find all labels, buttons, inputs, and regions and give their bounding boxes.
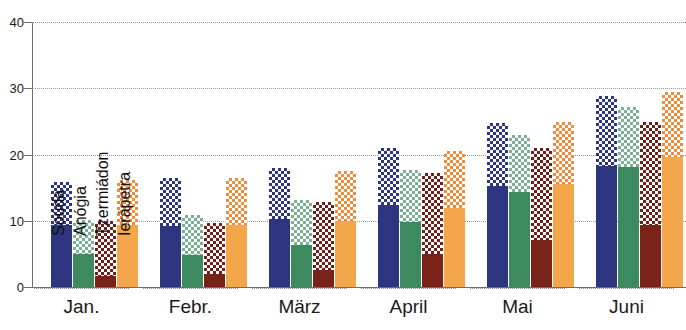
- bar-soda-Mai: [487, 123, 508, 287]
- bar-tzermidon-Febr: [204, 223, 225, 287]
- bar-segment-checkered: [335, 171, 356, 221]
- bar-segment-checkered: [182, 215, 203, 255]
- bar-segment-solid: [204, 274, 225, 287]
- y-tick-30: [24, 88, 32, 89]
- bar-tzermidon-April: [422, 173, 443, 287]
- bar-segment-checkered: [204, 223, 225, 274]
- bar-ierpetra-Mrz: [335, 171, 356, 287]
- bar-segment-solid: [487, 186, 508, 287]
- bar-segment-checkered: [553, 122, 574, 184]
- plot-area: [32, 22, 686, 287]
- y-tick-label-40: 40: [0, 15, 24, 30]
- category-label-Mai: Mai: [502, 296, 533, 318]
- bar-tzermidon-Mrz: [313, 202, 334, 287]
- y-tick-label-0: 0: [0, 280, 24, 295]
- bar-segment-solid: [313, 270, 334, 287]
- bar-segment-checkered: [596, 96, 617, 166]
- bar-segment-solid: [553, 184, 574, 287]
- series-label-tzermidon: Tzermiádon: [94, 152, 112, 236]
- bar-segment-checkered: [378, 148, 399, 205]
- bar-segment-checkered: [269, 168, 290, 220]
- y-tick-0: [24, 287, 32, 288]
- bar-segment-solid: [618, 167, 639, 287]
- bar-angia-Juni: [618, 107, 639, 287]
- y-tick-label-30: 30: [0, 81, 24, 96]
- bar-segment-solid: [95, 276, 116, 287]
- bar-segment-solid: [596, 166, 617, 287]
- bar-ierpetra-Mai: [553, 122, 574, 287]
- bar-segment-solid: [73, 254, 94, 287]
- bar-segment-checkered: [640, 122, 661, 225]
- x-axis-segment: [143, 288, 238, 289]
- x-axis-segment: [470, 288, 565, 289]
- bar-tzermidon-Juni: [640, 122, 661, 287]
- series-label-soda: Soúda: [50, 190, 68, 236]
- bar-soda-Juni: [596, 96, 617, 287]
- category-label-Juni: Juni: [609, 296, 644, 318]
- bar-angia-Febr: [182, 215, 203, 287]
- bar-tzermidon-Mai: [531, 148, 552, 287]
- bar-segment-solid: [640, 225, 661, 287]
- bar-segment-checkered: [531, 148, 552, 240]
- bar-segment-checkered: [400, 170, 421, 222]
- bar-segment-solid: [531, 240, 552, 287]
- bar-segment-checkered: [422, 173, 443, 254]
- x-axis-segment: [34, 288, 129, 289]
- bar-ierpetra-April: [444, 151, 465, 287]
- bar-segment-solid: [291, 245, 312, 287]
- y-tick-label-10: 10: [0, 213, 24, 228]
- bar-soda-Mrz: [269, 168, 290, 287]
- series-label-angia: Anógia: [72, 186, 90, 236]
- category-label-Mrz: März: [278, 296, 320, 318]
- bar-segment-solid: [378, 205, 399, 287]
- bar-segment-solid: [182, 255, 203, 287]
- bar-segment-checkered: [487, 123, 508, 187]
- bar-segment-checkered: [509, 135, 530, 191]
- bar-segment-solid: [400, 222, 421, 287]
- bar-ierpetra-Febr: [226, 178, 247, 287]
- bar-segment-checkered: [160, 178, 181, 226]
- bar-segment-solid: [160, 226, 181, 287]
- bar-ierpetra-Juni: [662, 92, 683, 287]
- x-axis-segment: [579, 288, 674, 289]
- x-axis-segment: [252, 288, 347, 289]
- y-tick-40: [24, 22, 32, 23]
- bar-segment-solid: [444, 208, 465, 288]
- bar-group: [487, 22, 574, 287]
- bar-angia-April: [400, 170, 421, 287]
- bar-segment-checkered: [444, 151, 465, 207]
- bar-group: [378, 22, 465, 287]
- bar-segment-checkered: [291, 200, 312, 246]
- bar-segment-solid: [335, 221, 356, 287]
- bar-segment-checkered: [313, 202, 334, 271]
- bar-group: [160, 22, 247, 287]
- bar-angia-Mrz: [291, 200, 312, 287]
- bar-soda-April: [378, 148, 399, 287]
- bar-segment-solid: [269, 219, 290, 287]
- category-label-April: April: [389, 296, 427, 318]
- category-label-Jan: Jan.: [64, 296, 100, 318]
- bar-soda-Febr: [160, 178, 181, 287]
- category-label-Febr: Febr.: [169, 296, 212, 318]
- bar-group: [596, 22, 683, 287]
- y-tick-10: [24, 221, 32, 222]
- series-label-ierpetra: Ierápetra: [116, 172, 134, 236]
- bar-segment-checkered: [662, 92, 683, 157]
- bar-segment-solid: [226, 225, 247, 287]
- bar-segment-solid: [422, 254, 443, 287]
- bar-angia-Mai: [509, 135, 530, 287]
- bar-segment-checkered: [226, 178, 247, 225]
- bar-group: [269, 22, 356, 287]
- bar-segment-solid: [509, 192, 530, 287]
- y-tick-20: [24, 155, 32, 156]
- bar-segment-solid: [662, 157, 683, 287]
- x-axis-segment: [361, 288, 456, 289]
- bar-chart: 010203040 SoúdaAnógiaTzermiádonIerápetra…: [0, 0, 686, 330]
- y-tick-label-20: 20: [0, 147, 24, 162]
- bar-segment-checkered: [618, 107, 639, 167]
